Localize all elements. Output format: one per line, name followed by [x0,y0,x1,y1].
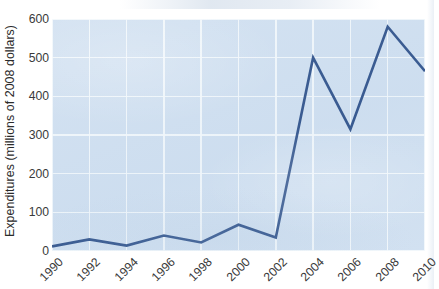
y-axis-tick-600: 600 [5,12,49,26]
scan-artifact-top [120,0,380,9]
y-axis-tick-400: 400 [5,89,49,103]
x-axis-tick-1996: 1996 [149,255,178,284]
x-axis-tick-1998: 1998 [186,255,215,284]
x-axis-tick-2000: 2000 [223,255,252,284]
scan-artifact-right-edge [427,0,434,289]
y-axis-tick-200: 200 [5,167,49,181]
x-axis-tick-labels: 1990199219941996199820002002200420062008… [52,251,425,289]
x-axis-tick-2010: 2010 [410,255,439,284]
x-axis-tick-2008: 2008 [373,255,402,284]
x-axis-tick-1992: 1992 [74,255,103,284]
x-axis-tick-2002: 2002 [261,255,290,284]
x-axis-tick-2004: 2004 [298,255,327,284]
x-axis-tick-2006: 2006 [335,255,364,284]
plot-area [52,19,425,251]
y-axis-tick-500: 500 [5,51,49,65]
expenditures-line-series [52,19,425,251]
y-axis-tick-labels: 0100200300400500600 [0,0,49,289]
y-axis-tick-0: 0 [5,244,49,258]
y-axis-tick-100: 100 [5,205,49,219]
y-axis-tick-300: 300 [5,128,49,142]
x-axis-tick-1994: 1994 [111,255,140,284]
